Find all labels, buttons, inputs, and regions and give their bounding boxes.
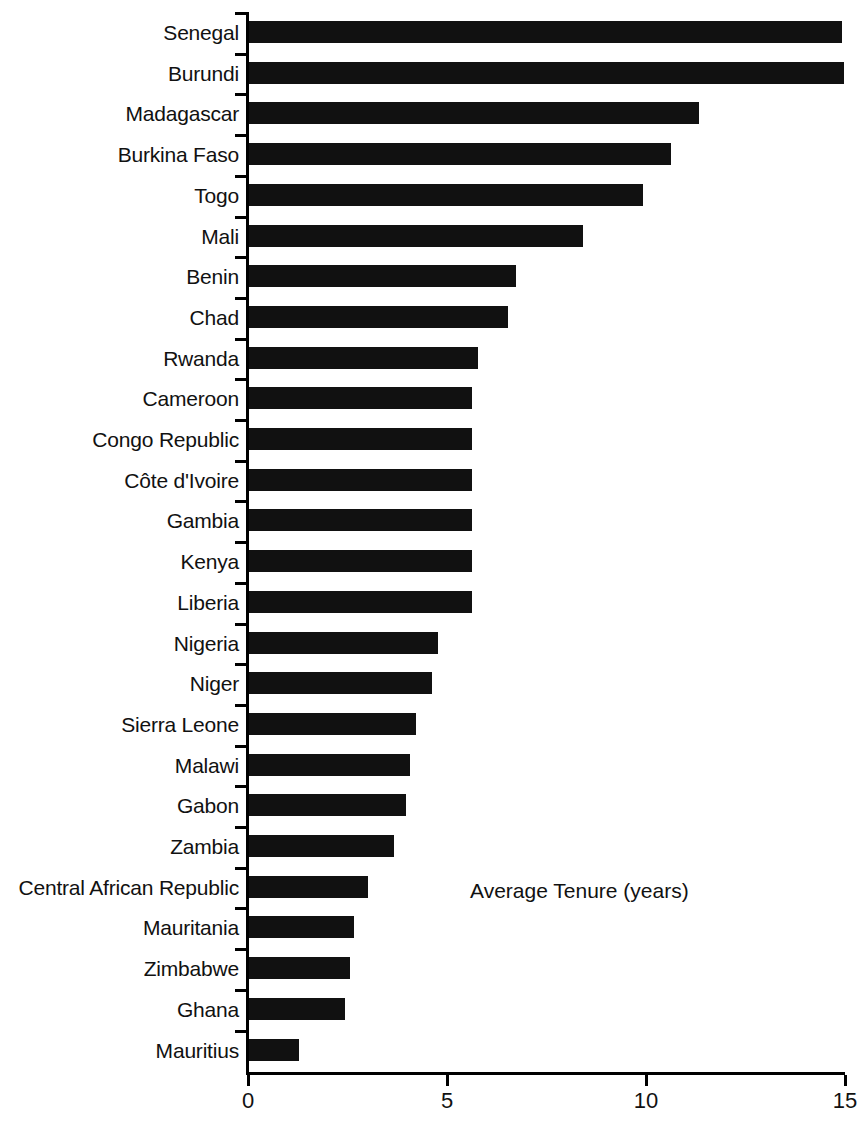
y-axis-tick (235, 582, 247, 585)
category-label: Liberia (177, 591, 239, 612)
y-axis-tick (235, 785, 247, 788)
bar (249, 509, 472, 531)
bar-row: Congo Republic (0, 419, 864, 459)
bar (249, 347, 478, 369)
category-label: Malawi (175, 754, 239, 775)
bar-row: Liberia (0, 582, 864, 622)
x-axis-spine (246, 1072, 845, 1075)
category-label: Côte d'Ivoire (124, 469, 239, 490)
bar-row: Kenya (0, 541, 864, 581)
y-axis-tick (235, 907, 247, 910)
bar (249, 62, 844, 84)
y-axis-tick (235, 297, 247, 300)
y-axis-tick (235, 623, 247, 626)
y-axis-tick (235, 216, 247, 219)
x-axis-tick (446, 1075, 449, 1086)
bar-row: Sierra Leone (0, 704, 864, 744)
bar (249, 794, 406, 816)
bar (249, 21, 842, 43)
bar (249, 916, 354, 938)
bar-row: Ghana (0, 989, 864, 1029)
bar (249, 957, 350, 979)
bar-row: Zimbabwe (0, 948, 864, 988)
bar (249, 632, 438, 654)
x-axis-annotation: Average Tenure (years) (470, 880, 689, 901)
y-axis-tick (235, 460, 247, 463)
bar (249, 102, 699, 124)
y-axis-tick (235, 1030, 247, 1033)
category-label: Rwanda (163, 347, 239, 368)
x-axis-tick (247, 1075, 250, 1086)
category-label: Gambia (167, 510, 239, 531)
bar (249, 550, 472, 572)
category-label: Gabon (177, 795, 239, 816)
bar-row: Gambia (0, 500, 864, 540)
y-axis-tick (235, 134, 247, 137)
category-label: Nigeria (174, 632, 239, 653)
y-axis-tick (235, 93, 247, 96)
bar-row: Chad (0, 297, 864, 337)
x-axis-tick-label: 10 (634, 1090, 658, 1112)
plot-area: SenegalBurundiMadagascarBurkina FasoTogo… (0, 0, 864, 1124)
bar-row: Senegal (0, 12, 864, 52)
bar (249, 265, 516, 287)
y-axis-tick (235, 12, 247, 15)
bar-chart: SenegalBurundiMadagascarBurkina FasoTogo… (0, 0, 864, 1124)
bar (249, 143, 671, 165)
bar-row: Madagascar (0, 93, 864, 133)
bar-row: Gabon (0, 785, 864, 825)
category-label: Burundi (168, 62, 239, 83)
category-label: Senegal (163, 22, 239, 43)
y-axis-tick (235, 826, 247, 829)
category-label: Madagascar (125, 103, 239, 124)
bar-row: Mauritius (0, 1030, 864, 1070)
y-axis-tick (235, 500, 247, 503)
bar-row: Togo (0, 175, 864, 215)
bar-row: Mali (0, 216, 864, 256)
bar (249, 225, 583, 247)
category-label: Zambia (170, 836, 239, 857)
x-axis-tick-label: 15 (833, 1090, 857, 1112)
y-axis-tick (235, 175, 247, 178)
bar-row: Malawi (0, 745, 864, 785)
y-axis-tick (235, 53, 247, 56)
x-axis-tick (645, 1075, 648, 1086)
bar-row: Central African Republic (0, 867, 864, 907)
category-label: Ghana (177, 998, 239, 1019)
y-axis-tick (235, 867, 247, 870)
bar (249, 306, 508, 328)
y-axis-tick (235, 663, 247, 666)
bar-row: Côte d'Ivoire (0, 460, 864, 500)
bar (249, 672, 432, 694)
y-axis-tick (235, 419, 247, 422)
y-axis-tick (235, 378, 247, 381)
category-label: Togo (194, 184, 239, 205)
category-label: Mauritius (156, 1039, 239, 1060)
x-axis-tick (844, 1075, 847, 1086)
bar-row: Burkina Faso (0, 134, 864, 174)
bar (249, 184, 643, 206)
bar-row: Zambia (0, 826, 864, 866)
bar-row: Cameroon (0, 378, 864, 418)
bar (249, 998, 345, 1020)
bar (249, 713, 416, 735)
y-axis-tick (235, 338, 247, 341)
x-axis-tick-label: 5 (441, 1090, 453, 1112)
category-label: Benin (186, 266, 239, 287)
category-label: Kenya (180, 551, 239, 572)
y-axis-tick (235, 989, 247, 992)
bar-row: Mauritania (0, 907, 864, 947)
bar (249, 835, 394, 857)
bar (249, 754, 410, 776)
bar-row: Niger (0, 663, 864, 703)
bar-row: Benin (0, 256, 864, 296)
category-label: Burkina Faso (118, 144, 239, 165)
bar-row: Rwanda (0, 338, 864, 378)
bar-row: Burundi (0, 53, 864, 93)
bar (249, 1039, 299, 1061)
y-axis-tick (235, 704, 247, 707)
category-label: Chad (190, 306, 239, 327)
y-axis-tick (235, 256, 247, 259)
category-label: Mali (201, 225, 239, 246)
x-axis-tick-label: 0 (242, 1090, 254, 1112)
